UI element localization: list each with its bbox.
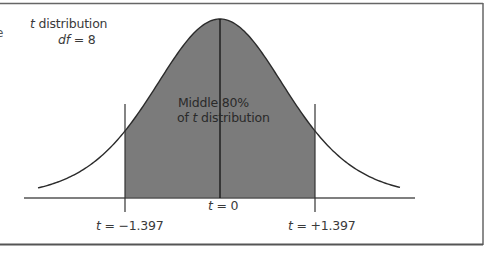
tick-label-center: t = 0 [208,198,238,213]
tick-label-left: t = −1.397 [96,218,164,233]
shaded-label-line2: of t distribution [177,110,270,125]
legend-df: df = 8 [58,32,96,47]
shaded-label-line1: Middle 80% [178,95,249,110]
legend-title: t distribution [30,16,107,31]
t-distribution-figure: e t distribution df = 8 Middle 80% of t … [0,0,495,255]
tick-label-right: t = +1.397 [288,218,356,233]
cropped-text-fragment: e [0,26,3,40]
